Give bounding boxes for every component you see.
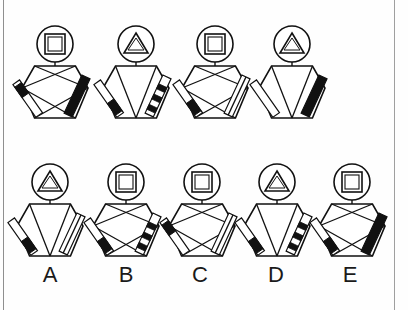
figure-option-C[interactable] [160,164,237,256]
figure-top-3[interactable] [173,26,250,118]
answer-label-d[interactable]: D [256,262,296,288]
figure-option-E[interactable] [310,164,387,256]
answer-label-row: A B C D E [0,262,408,296]
figure-option-D[interactable] [235,164,312,256]
figure-option-B[interactable] [84,164,161,256]
figure-option-A[interactable] [8,164,85,256]
head-square-inner-icon [48,37,62,51]
answer-label-e[interactable]: E [330,262,370,288]
head-square-inner-icon [345,175,359,189]
answer-label-c[interactable]: C [180,262,220,288]
puzzle-frame: A B C D E [0,0,408,310]
figure-top-4[interactable] [250,26,327,118]
answer-label-b[interactable]: B [106,262,146,288]
head-square-inner-icon [208,37,222,51]
figure-top-1[interactable] [13,26,90,118]
answer-label-a[interactable]: A [30,262,70,288]
head-square-inner-icon [195,175,209,189]
figure-top-2[interactable] [94,26,171,118]
head-square-inner-icon [119,175,133,189]
